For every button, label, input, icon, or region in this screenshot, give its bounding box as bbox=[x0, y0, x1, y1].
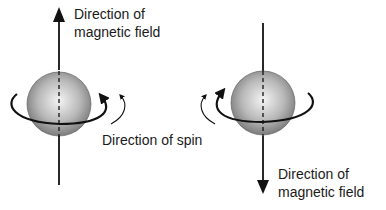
left-spin-direction-arrow bbox=[111, 96, 125, 124]
left-field-label-line1: Direction of bbox=[74, 5, 160, 23]
left-field-label-line2: magnetic field bbox=[74, 23, 160, 41]
spin-label: Direction of spin bbox=[102, 131, 202, 149]
right-field-label-line2: magnetic field bbox=[278, 183, 364, 201]
right-field-label-line1: Direction of bbox=[278, 165, 364, 183]
right-spin-direction-arrow bbox=[201, 96, 215, 124]
left-field-label: Direction of magnetic field bbox=[74, 5, 160, 41]
right-field-label: Direction of magnetic field bbox=[278, 165, 364, 201]
arrow-down-icon bbox=[257, 180, 269, 194]
arrow-up-icon bbox=[53, 7, 65, 22]
